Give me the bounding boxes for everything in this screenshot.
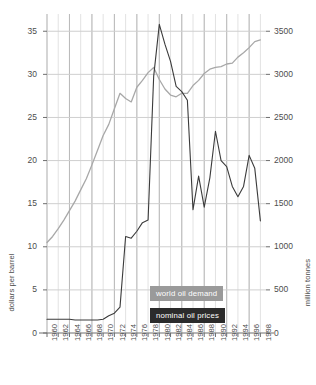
series-line-world-oil-demand [47, 40, 260, 243]
y-axis-left-tick-label: 15 [15, 198, 37, 208]
y-axis-right-tick-label: 2500 [274, 112, 304, 122]
y-axis-left-tick-label: 35 [15, 26, 37, 36]
x-axis-tick-label: 1972 [118, 324, 127, 341]
x-axis-tick-label: 1992 [230, 324, 239, 341]
x-axis-tick-label: 1960 [50, 324, 59, 341]
legend-item-world-oil-demand: world oil demand [150, 286, 223, 301]
x-axis-tick-label: 1990 [219, 324, 228, 341]
y-axis-right-tick-label: 3000 [274, 69, 304, 79]
x-axis-tick-label: 1986 [196, 324, 205, 341]
y-axis-right-tick-label: 3500 [274, 26, 304, 36]
y-axis-left-tick-label: 25 [15, 112, 37, 122]
y-axis-left-tick-label: 30 [15, 69, 37, 79]
x-axis-tick-label: 1996 [252, 324, 261, 341]
x-axis-tick-label: 1974 [129, 324, 138, 341]
x-axis-tick-label: 1976 [140, 324, 149, 341]
x-axis-tick-label: 1982 [174, 324, 183, 341]
x-axis-tick-label: 1994 [241, 324, 250, 341]
x-axis-tick-label: 1964 [73, 324, 82, 341]
y-axis-right-tick-label: 0 [274, 328, 304, 338]
y-axis-right-title: million tonnes [303, 248, 312, 318]
x-axis-tick-label: 1978 [151, 324, 160, 341]
y-axis-left-tick-label: 5 [15, 284, 37, 294]
y-axis-right-tick-label: 500 [274, 284, 304, 294]
y-axis-right-tick-label: 1000 [274, 241, 304, 251]
x-axis-tick-label: 1980 [163, 324, 172, 341]
y-axis-left-tick-label: 0 [15, 328, 37, 338]
x-axis-tick-label: 1984 [185, 324, 194, 341]
y-axis-left-tick-label: 20 [15, 155, 37, 165]
x-axis-tick-label: 1968 [95, 324, 104, 341]
x-axis-tick-label: 1998 [264, 324, 273, 341]
x-axis-tick-label: 1988 [207, 324, 216, 341]
y-axis-left-tick-label: 10 [15, 241, 37, 251]
y-axis-right-tick-label: 2000 [274, 155, 304, 165]
x-axis-tick-label: 1970 [106, 324, 115, 341]
oil-chart: dollars per barrel million tonnes 051015… [0, 0, 316, 385]
x-axis-tick-label: 1966 [84, 324, 93, 341]
y-axis-left-title: dollars per barrel [7, 248, 16, 318]
x-axis-tick-label: 1962 [61, 324, 70, 341]
y-axis-right-tick-label: 1500 [274, 198, 304, 208]
legend-item-nominal-oil-prices: nominal oil prices [150, 308, 225, 323]
